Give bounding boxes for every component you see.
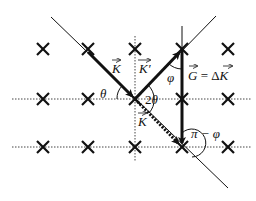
lattice-point-cross-icon [82,93,94,105]
label-K-prime-text: K′ [138,61,151,76]
label-K-lower-text: K [137,114,148,129]
lattice-point-cross-icon [37,43,49,55]
label-pi-minus-phi: π − φ [191,126,220,141]
label-G-equation-text: G = ΔK [188,68,230,83]
lattice-point-cross-icon [37,93,49,105]
scattering-diagram: K K′ θ 2θ K φ G = ΔK π − φ [0,0,256,201]
label-K-lower: K [137,113,148,129]
lattice-point-cross-icon [129,43,141,55]
label-K-incident: K [111,60,122,76]
label-K-prime: K′ [138,60,151,76]
lattice-point-cross-icon [82,141,94,153]
vector-K-incident [88,52,132,96]
label-delta-K: K [219,68,230,83]
incident-ray-line [51,17,228,188]
label-equals-delta: = Δ [197,68,219,83]
lattice-point-cross-icon [37,141,49,153]
label-theta: θ [100,86,107,101]
label-K-incident-text: K [111,61,122,76]
label-2theta: 2θ [145,92,159,107]
label-G-equation: G = ΔK [188,66,232,83]
lattice-point-cross-icon [222,43,234,55]
arc-theta [117,86,122,99]
label-phi: φ [167,70,174,85]
